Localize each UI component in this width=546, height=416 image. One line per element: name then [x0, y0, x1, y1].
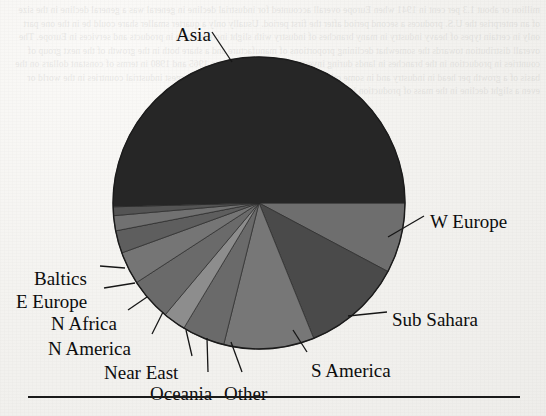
- slice-label-asia: Asia: [176, 25, 211, 44]
- slice-label-e-europe: E Europe: [16, 292, 87, 311]
- leader-line-n-africa: [128, 297, 147, 310]
- pie-slice-asia: [113, 57, 405, 207]
- leader-line-near-east: [186, 330, 192, 356]
- leader-line-asia: [212, 32, 232, 62]
- slice-label-oceania: Oceania: [150, 384, 212, 403]
- leader-line-e-europe: [104, 283, 135, 288]
- leader-line-baltics: [100, 266, 125, 268]
- slice-label-other: Other: [224, 384, 267, 403]
- slice-label-near-east: Near East: [104, 363, 178, 382]
- slice-label-n-america: N America: [48, 339, 131, 358]
- leader-line-oceania: [207, 338, 208, 372]
- pie-slices: [113, 57, 405, 349]
- leader-line-n-america: [152, 312, 163, 334]
- slice-label-n-africa: N Africa: [51, 314, 117, 333]
- horizontal-rule: [28, 396, 520, 398]
- slice-label-s-america: S America: [311, 361, 391, 380]
- slice-label-w-europe: W Europe: [430, 212, 507, 231]
- slice-label-sub-sahara: Sub Sahara: [392, 310, 478, 329]
- slice-label-baltics: Baltics: [34, 269, 87, 288]
